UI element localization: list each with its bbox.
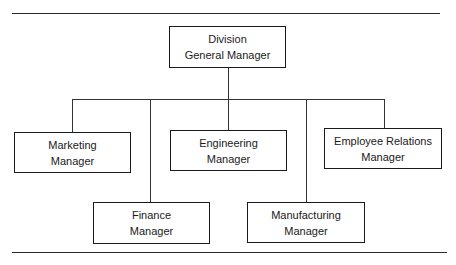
connector-manufacturing [306,99,307,202]
division-general-manager-box: Division General Manager [169,26,286,68]
employee-relations-manager-box: Employee Relations Manager [324,128,442,169]
manufacturing-manager-box: Manufacturing Manager [247,202,365,243]
connector-root-down [228,67,229,99]
bottom-rule [12,252,447,253]
box-label-line2: Manager [207,151,250,167]
connector-employee-relations [384,99,385,128]
box-label-line1: Finance [132,207,171,223]
box-label-line2: Manager [361,149,404,165]
box-label-line1: Division [208,31,247,47]
engineering-manager-box: Engineering Manager [170,130,287,171]
connector-engineering [228,99,229,130]
box-label-line2: Manager [284,223,327,239]
finance-manager-box: Finance Manager [93,202,210,244]
top-rule [12,13,440,14]
box-label-line1: Employee Relations [334,133,432,149]
connector-finance [150,99,151,202]
box-label-line2: Manager [130,223,173,239]
box-label-line1: Manufacturing [271,207,341,223]
box-label-line2: Manager [51,153,94,169]
connector-marketing [72,99,73,132]
box-label-line1: Marketing [48,137,96,153]
marketing-manager-box: Marketing Manager [14,132,131,173]
box-label-line2: General Manager [185,47,271,63]
box-label-line1: Engineering [199,135,258,151]
